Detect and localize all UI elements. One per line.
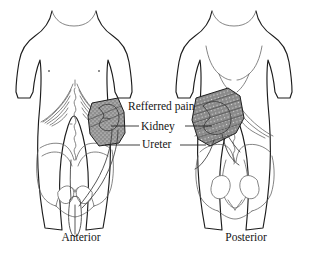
caption-posterior: Posterior bbox=[203, 231, 289, 243]
label-referred-pain: Refferred pain bbox=[128, 101, 195, 113]
anterior-referred-pain-zone bbox=[88, 98, 126, 146]
anterior-nipple-right bbox=[98, 70, 100, 72]
anterior-nipple-left bbox=[48, 70, 50, 72]
label-kidney: Kidney bbox=[141, 121, 175, 133]
anterior-ureter-left bbox=[70, 160, 71, 199]
posterior-referred-pain-zone bbox=[190, 88, 246, 148]
kidney-referred-pain-figure: Refferred pain Kidney Ureter Anterior Po… bbox=[0, 0, 328, 255]
label-ureter: Ureter bbox=[142, 139, 171, 151]
caption-anterior: Anterior bbox=[43, 231, 119, 243]
anterior-figure bbox=[16, 11, 132, 237]
posterior-figure bbox=[176, 11, 292, 230]
